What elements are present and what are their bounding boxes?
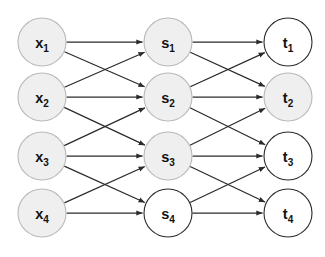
node-t2: t2 <box>264 73 312 121</box>
node-t1: t1 <box>264 18 312 66</box>
node-x3: x3 <box>18 132 66 180</box>
network-diagram: x1x2x3x4s1s2s3s4t1t2t3t4 <box>0 0 325 257</box>
node-s4: s4 <box>144 189 192 237</box>
node-x4: x4 <box>18 189 66 237</box>
node-t3: t3 <box>264 132 312 180</box>
node-s1: s1 <box>144 18 192 66</box>
node-t4: t4 <box>264 189 312 237</box>
node-s2: s2 <box>144 73 192 121</box>
node-x2: x2 <box>18 73 66 121</box>
nodes-group: x1x2x3x4s1s2s3s4t1t2t3t4 <box>18 18 312 237</box>
node-x1: x1 <box>18 18 66 66</box>
network-graph-canvas: x1x2x3x4s1s2s3s4t1t2t3t4 <box>0 0 325 257</box>
edges-group <box>64 42 265 213</box>
node-s3: s3 <box>144 132 192 180</box>
